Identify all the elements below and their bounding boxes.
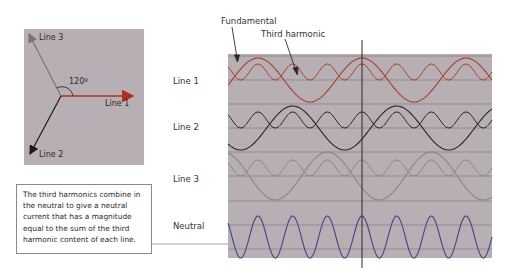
waveform-chart-svg [0,0,506,275]
waveform-panel [228,54,492,258]
